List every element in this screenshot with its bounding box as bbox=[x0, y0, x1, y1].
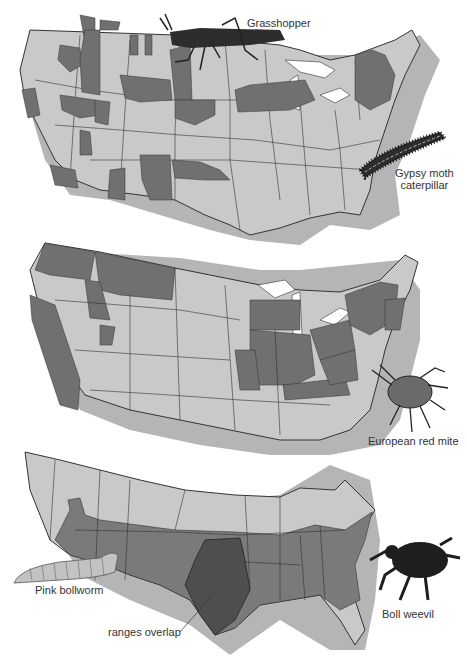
label-pink-bollworm: Pink bollworm bbox=[35, 584, 103, 596]
map-3-bollworm-weevil bbox=[14, 452, 460, 655]
label-gypsy-moth-line1: Gypsy moth bbox=[395, 167, 454, 179]
map-2-european-red-mite bbox=[30, 243, 448, 455]
label-gypsy-moth-line2: caterpillar bbox=[395, 179, 454, 191]
map-1-grasshopper-gypsy-moth bbox=[20, 14, 445, 245]
pest-range-maps bbox=[0, 0, 467, 665]
label-european-red-mite: European red mite bbox=[368, 435, 459, 447]
label-ranges-overlap: ranges overlap bbox=[108, 626, 181, 638]
label-gypsy-moth: Gypsy moth caterpillar bbox=[395, 167, 454, 191]
label-grasshopper: Grasshopper bbox=[247, 17, 311, 29]
boll-weevil-icon bbox=[370, 538, 460, 600]
label-boll-weevil: Boll weevil bbox=[382, 608, 434, 620]
